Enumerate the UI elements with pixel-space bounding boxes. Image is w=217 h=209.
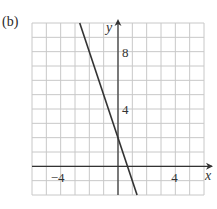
x-tick-label: 4 <box>171 170 178 185</box>
y-tick-label: 8 <box>122 45 129 60</box>
x-axis-label: x <box>204 168 212 183</box>
x-tick-label: −4 <box>51 170 65 185</box>
chart-canvas: −4 4 4 8 x y <box>0 0 217 209</box>
y-tick-label: 4 <box>122 102 129 117</box>
y-axis-label: y <box>104 20 113 35</box>
